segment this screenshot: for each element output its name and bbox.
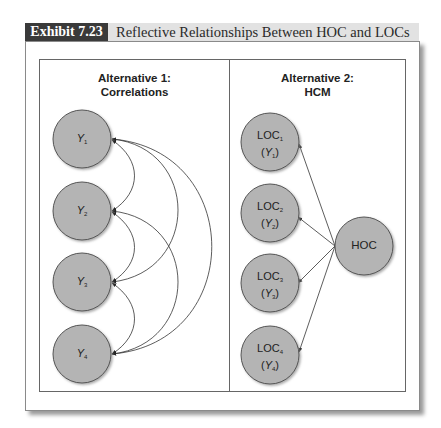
panel-2-title: Alternative 2: HCM bbox=[230, 71, 405, 99]
label-loc2: LOC2 (Y2) bbox=[245, 200, 295, 234]
panel-1-title: Alternative 1: Correlations bbox=[40, 71, 229, 99]
panel-2-title-line1: Alternative 2: bbox=[230, 71, 405, 85]
panel-1-title-line2: Correlations bbox=[40, 85, 229, 99]
label-loc1: LOC1 (Y1) bbox=[245, 129, 295, 163]
label-loc3: LOC3 (Y3) bbox=[245, 270, 295, 304]
label-y1: Y1 bbox=[62, 132, 102, 149]
panel-1-title-line1: Alternative 1: bbox=[40, 71, 229, 85]
label-hoc: HOC bbox=[339, 239, 389, 252]
panel-2-title-line2: HCM bbox=[230, 85, 405, 99]
label-y4: Y4 bbox=[62, 347, 102, 364]
label-y2: Y2 bbox=[62, 204, 102, 221]
label-y3: Y3 bbox=[62, 275, 102, 292]
label-loc4: LOC4 (Y4) bbox=[245, 342, 295, 376]
